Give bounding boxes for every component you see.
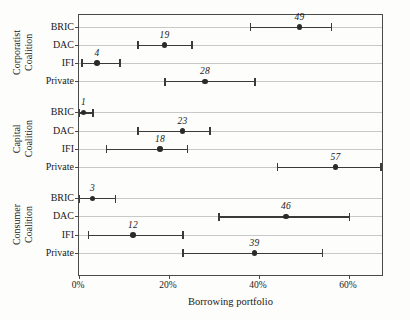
estimate-marker: 28 (79, 81, 384, 82)
ci-cap-upper (331, 23, 332, 31)
point-estimate-dot (81, 110, 87, 116)
x-tick-label: 60% (339, 280, 356, 290)
point-estimate-dot (94, 60, 100, 66)
estimate-marker: 1 (79, 112, 384, 113)
point-estimate-dot (162, 42, 168, 48)
ci-cap-upper (209, 127, 210, 135)
confidence-interval-bar (164, 81, 254, 82)
category-label-private: Private (46, 160, 74, 171)
category-label-bric: BRIC (51, 20, 74, 31)
point-estimate-dot (130, 232, 136, 238)
ci-cap-lower (250, 23, 251, 31)
confidence-interval-bar (79, 198, 115, 199)
plot-area: 491942812318573461239 (78, 14, 383, 276)
x-axis-tick-labels: 0%20%40%60% (78, 280, 383, 294)
point-value-label: 1 (81, 97, 86, 107)
confidence-interval-bar (106, 149, 187, 150)
ci-cap-lower (137, 41, 138, 49)
estimate-marker: 57 (79, 167, 384, 168)
estimate-marker: 4 (79, 63, 384, 64)
ci-cap-upper (92, 109, 93, 117)
category-label-private: Private (46, 246, 74, 257)
x-tick-mark (79, 275, 80, 279)
ci-cap-upper (322, 249, 323, 257)
ci-cap-upper (254, 78, 255, 86)
x-tick-label: 0% (72, 280, 85, 290)
point-value-label: 19 (160, 30, 170, 40)
estimate-marker: 39 (79, 253, 384, 254)
category-label-dac: DAC (53, 210, 74, 221)
confidence-interval-bar (250, 27, 331, 28)
category-label-bric: BRIC (51, 106, 74, 117)
estimate-marker: 12 (79, 235, 384, 236)
estimate-marker: 18 (79, 149, 384, 150)
ci-cap-upper (349, 213, 350, 221)
point-estimate-dot (157, 146, 163, 152)
point-value-label: 23 (178, 116, 188, 126)
confidence-interval-bar (81, 63, 119, 64)
estimate-marker: 23 (79, 131, 384, 132)
ci-cap-lower (277, 163, 278, 171)
ci-cap-lower (79, 195, 80, 203)
ci-cap-lower (106, 145, 107, 153)
point-value-label: 57 (331, 152, 341, 162)
category-label-ifi: IFI (62, 228, 74, 239)
ci-cap-lower (164, 78, 165, 86)
point-value-label: 4 (95, 48, 100, 58)
point-value-label: 12 (128, 220, 138, 230)
ci-cap-upper (182, 231, 183, 239)
estimate-marker: 3 (79, 198, 384, 199)
x-tick-label: 20% (159, 280, 176, 290)
estimate-marker: 46 (79, 216, 384, 217)
ci-cap-lower (182, 249, 183, 257)
category-label-private: Private (46, 75, 74, 86)
ci-cap-upper (115, 195, 116, 203)
x-tick-mark (259, 275, 260, 279)
category-label-ifi: IFI (62, 56, 74, 67)
ci-cap-upper (380, 163, 381, 171)
point-value-label: 49 (295, 12, 305, 22)
point-estimate-dot (202, 79, 208, 85)
ci-cap-upper (187, 145, 188, 153)
x-tick-label: 40% (249, 280, 266, 290)
point-estimate-dot (180, 128, 186, 134)
category-axis-labels: BRICDACIFIPrivateBRICDACIFIPrivateBRICDA… (0, 14, 74, 276)
point-estimate-dot (283, 214, 289, 220)
ci-cap-lower (218, 213, 219, 221)
category-label-bric: BRIC (51, 192, 74, 203)
category-label-ifi: IFI (62, 142, 74, 153)
estimate-marker: 19 (79, 45, 384, 46)
point-estimate-dot (333, 164, 339, 170)
point-value-label: 39 (250, 238, 260, 248)
point-estimate-dot (90, 196, 96, 202)
confidence-interval-bar (137, 131, 209, 132)
point-estimate-dot (252, 250, 258, 256)
ci-cap-lower (88, 231, 89, 239)
ci-cap-lower (137, 127, 138, 135)
confidence-interval-bar (277, 167, 380, 168)
ci-cap-upper (191, 41, 192, 49)
point-value-label: 18 (155, 134, 165, 144)
point-value-label: 46 (281, 201, 291, 211)
category-label-dac: DAC (53, 124, 74, 135)
x-tick-mark (349, 275, 350, 279)
point-value-label: 28 (200, 66, 210, 76)
ci-cap-lower (81, 59, 82, 67)
x-axis-title: Borrowing portfolio (78, 296, 383, 307)
point-estimate-dot (297, 24, 303, 30)
point-value-label: 3 (90, 183, 95, 193)
category-label-dac: DAC (53, 38, 74, 49)
estimate-marker: 49 (79, 27, 384, 28)
ci-cap-upper (119, 59, 120, 67)
x-tick-mark (169, 275, 170, 279)
figure-dot-whisker-chart: Corporatist CoalitionCapital CoalitionCo… (0, 0, 410, 320)
